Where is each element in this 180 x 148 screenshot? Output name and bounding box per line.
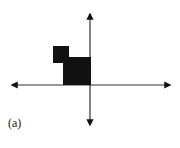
large-square (63, 57, 91, 85)
figure-label: (a) (8, 116, 21, 131)
axes-diagram (0, 0, 180, 148)
coordinate-figure: (a) (0, 0, 180, 148)
